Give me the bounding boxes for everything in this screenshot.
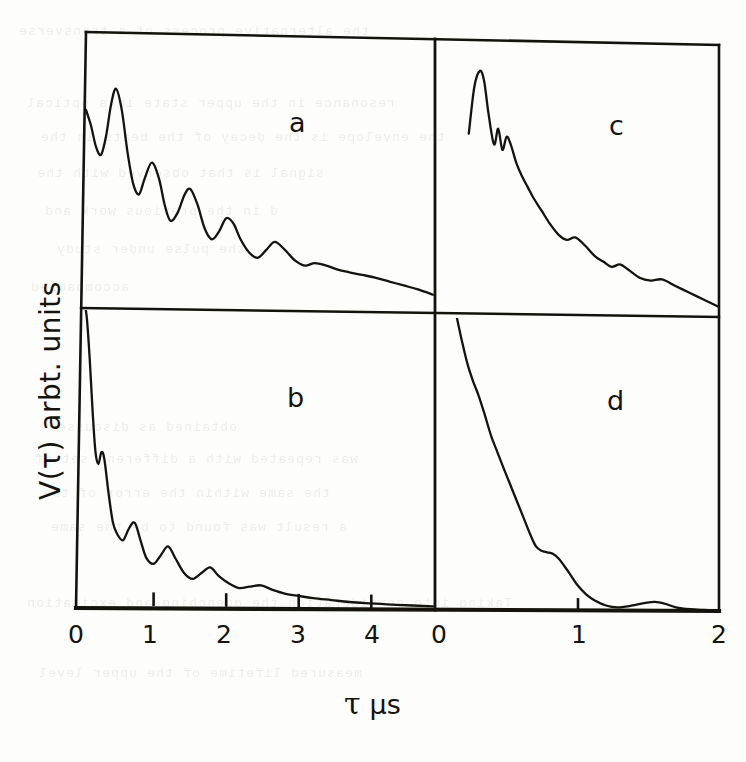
panel-label-a: a	[289, 107, 306, 138]
panel-label-d: d	[607, 385, 624, 416]
curve-panel-d	[456, 314, 718, 610]
x-axis-label: τμs	[344, 686, 401, 721]
xtick-label-right-1: 1	[564, 620, 594, 649]
xtick-label-right-2: 2	[704, 620, 734, 649]
xtick-label-left-1: 1	[135, 620, 165, 649]
curve-panel-a	[86, 89, 433, 295]
panel-label-b: b	[287, 382, 304, 413]
xtick-label-left-0: 0	[61, 620, 91, 649]
y-axis-label: V(τ) arbt. units	[34, 281, 67, 500]
figure-root: the alternative process of a transverse …	[0, 0, 746, 762]
curve-panel-c	[469, 71, 718, 307]
curve-panel-b	[81, 294, 433, 606]
xtick-label-right-0: 0	[424, 620, 454, 649]
x-axis-unit: μs	[370, 689, 401, 720]
xtick-label-left-3: 3	[283, 620, 313, 649]
x-axis-symbol: τ	[344, 686, 361, 721]
data-curves	[81, 71, 718, 611]
panel-label-c: c	[609, 110, 624, 141]
xtick-label-left-4: 4	[357, 620, 387, 649]
xtick-label-left-2: 2	[209, 620, 239, 649]
